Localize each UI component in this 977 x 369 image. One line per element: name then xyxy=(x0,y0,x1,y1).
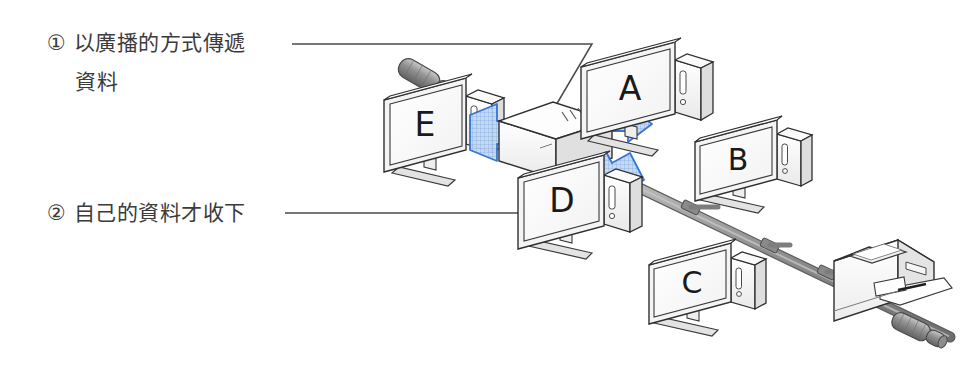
computer-label-d: D xyxy=(549,181,574,220)
computer-label-c: C xyxy=(682,265,703,300)
monitor-b: B xyxy=(695,116,782,201)
annotation-note-2-line-1: ② 自己的資料才收下 xyxy=(47,196,246,226)
computer-b[interactable]: B xyxy=(695,116,812,213)
tower-a xyxy=(675,54,713,120)
monitor-e: E xyxy=(384,74,472,172)
computer-label-b: B xyxy=(728,142,749,177)
computer-label-e: E xyxy=(415,105,436,144)
monitor-a: A xyxy=(581,38,681,139)
annotation-note-1-line-2: 資料 xyxy=(75,65,118,95)
tower-d xyxy=(604,169,642,232)
computer-c[interactable]: C xyxy=(649,239,766,336)
tower-b xyxy=(777,128,812,186)
figure-canvas: E xyxy=(0,0,977,369)
computer-a[interactable]: A xyxy=(581,38,713,156)
annotation-note-1-line-1: ① 以廣播的方式傳遞 xyxy=(47,26,246,56)
computer-label-a: A xyxy=(619,69,642,108)
monitor-c: C xyxy=(649,239,736,324)
tower-c xyxy=(731,252,766,309)
